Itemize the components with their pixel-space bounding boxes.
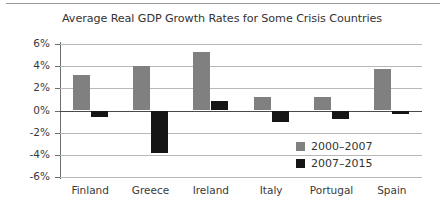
y-tick-label: -4% xyxy=(14,148,50,160)
y-tick-mark xyxy=(55,177,60,178)
y-tick-label: -6% xyxy=(14,170,50,182)
bar xyxy=(211,101,228,111)
y-tick-mark xyxy=(55,155,60,156)
y-tick-label: 6% xyxy=(14,37,50,49)
bar xyxy=(91,111,108,118)
bar xyxy=(193,52,210,111)
bar xyxy=(314,97,331,110)
gridline xyxy=(60,88,422,89)
bar xyxy=(272,111,289,122)
gridline xyxy=(60,177,422,178)
bar xyxy=(392,111,409,114)
gridline xyxy=(60,66,422,67)
bar xyxy=(133,66,150,110)
legend-swatch-icon xyxy=(296,142,305,151)
y-axis-tick-labels: 6%4%2%0%-2%-4%-6% xyxy=(12,0,50,209)
zero-axis-line xyxy=(60,111,422,112)
y-tick-label: -2% xyxy=(14,126,50,138)
y-tick-mark xyxy=(55,111,60,112)
bar xyxy=(73,75,90,110)
bar xyxy=(374,69,391,110)
chart-figure: Average Real GDP Growth Rates for Some C… xyxy=(0,0,444,209)
bar xyxy=(254,97,271,110)
chart-title: Average Real GDP Growth Rates for Some C… xyxy=(0,12,444,25)
x-tick-label: Spain xyxy=(352,184,432,196)
gridline xyxy=(60,44,422,45)
top-divider xyxy=(6,3,440,4)
y-tick-label: 2% xyxy=(14,81,50,93)
legend-swatch-icon xyxy=(296,159,305,168)
bar xyxy=(151,111,168,153)
y-tick-label: 0% xyxy=(14,104,50,116)
bar xyxy=(332,111,349,120)
chart-legend: 2000–2007 2007–2015 xyxy=(296,139,416,173)
y-tick-mark xyxy=(55,44,60,45)
y-tick-mark xyxy=(55,133,60,134)
legend-item[interactable]: 2000–2007 xyxy=(296,139,416,154)
legend-item[interactable]: 2007–2015 xyxy=(296,156,416,171)
y-tick-mark xyxy=(55,66,60,67)
gridline xyxy=(60,133,422,134)
y-tick-label: 4% xyxy=(14,59,50,71)
legend-item-label: 2007–2015 xyxy=(311,157,373,170)
y-tick-mark xyxy=(55,88,60,89)
legend-item-label: 2000–2007 xyxy=(311,140,373,153)
